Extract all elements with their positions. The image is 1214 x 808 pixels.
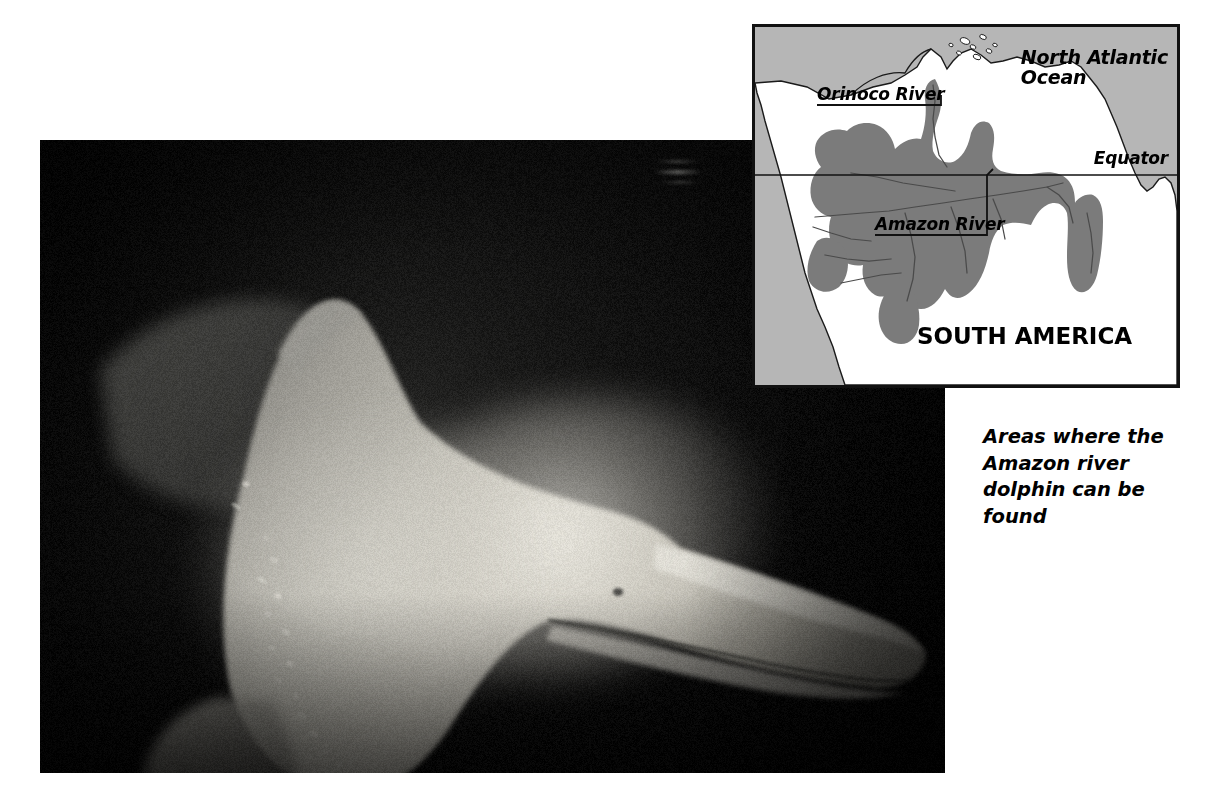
map-label-north-atlantic-line2: Ocean bbox=[1021, 67, 1168, 87]
map-label-amazon-river: Amazon River bbox=[875, 215, 1004, 233]
caption-line-4: found bbox=[983, 505, 1047, 528]
map-label-equator: Equator bbox=[1094, 149, 1168, 167]
caption-line-1: Areas where the bbox=[983, 425, 1164, 448]
range-map-caption: Areas where the Amazon river dolphin can… bbox=[983, 424, 1198, 530]
map-label-orinoco-river: Orinoco River bbox=[817, 85, 944, 103]
caption-line-3: dolphin can be bbox=[983, 478, 1145, 501]
caption-line-2: Amazon river bbox=[983, 452, 1129, 475]
map-label-south-america: SOUTH AMERICA bbox=[917, 324, 1132, 348]
map-label-north-atlantic-ocean: North Atlantic Ocean bbox=[1021, 47, 1168, 87]
map-label-north-atlantic-line1: North Atlantic bbox=[1021, 46, 1168, 68]
range-map-figure: North Atlantic Ocean Equator Orinoco Riv… bbox=[752, 24, 1180, 388]
